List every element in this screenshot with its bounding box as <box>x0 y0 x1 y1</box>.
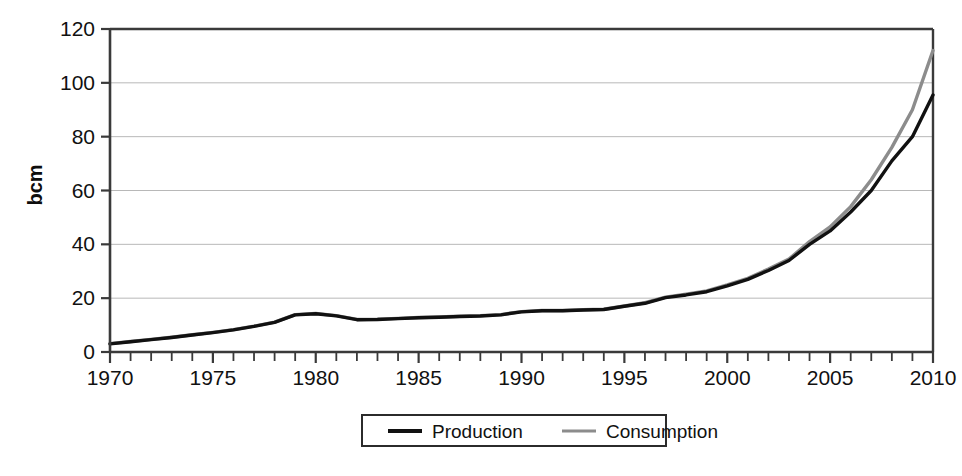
chart-legend: ProductionConsumption <box>362 415 718 446</box>
y-tick-label-100: 100 <box>60 71 95 94</box>
x-tick-label-2005: 2005 <box>807 366 854 389</box>
gridlines <box>110 29 933 298</box>
y-tick-label-80: 80 <box>72 125 95 148</box>
legend-label-consumption: Consumption <box>606 421 718 442</box>
data-series-group <box>110 51 933 344</box>
y-tick-label-20: 20 <box>72 286 95 309</box>
x-tick-label-2010: 2010 <box>910 366 957 389</box>
series-line-production <box>110 95 933 344</box>
y-axis: 020406080100120 bcm <box>24 17 110 363</box>
legend-label-production: Production <box>432 421 523 442</box>
x-tick-label-1985: 1985 <box>395 366 442 389</box>
x-tick-label-1990: 1990 <box>498 366 545 389</box>
y-tick-label-120: 120 <box>60 17 95 40</box>
x-axis-minor-ticks <box>110 352 933 363</box>
x-axis: 197019751980198519901995200020052010 <box>87 352 957 389</box>
x-tick-label-1975: 1975 <box>190 366 237 389</box>
y-axis-title: bcm <box>24 164 46 205</box>
x-tick-label-2000: 2000 <box>704 366 751 389</box>
chart-container: 020406080100120 bcm 19701975198019851990… <box>0 0 962 476</box>
line-chart: 020406080100120 bcm 19701975198019851990… <box>0 0 962 476</box>
x-tick-label-1970: 1970 <box>87 366 134 389</box>
y-axis-tick-labels: 020406080100120 <box>60 17 95 363</box>
y-tick-label-0: 0 <box>83 340 95 363</box>
x-axis-tick-labels: 197019751980198519901995200020052010 <box>87 366 957 389</box>
x-tick-label-1995: 1995 <box>601 366 648 389</box>
series-line-consumption <box>110 51 933 344</box>
y-tick-label-60: 60 <box>72 179 95 202</box>
y-tick-label-40: 40 <box>72 232 95 255</box>
y-axis-ticks <box>101 29 110 352</box>
x-tick-label-1980: 1980 <box>292 366 339 389</box>
